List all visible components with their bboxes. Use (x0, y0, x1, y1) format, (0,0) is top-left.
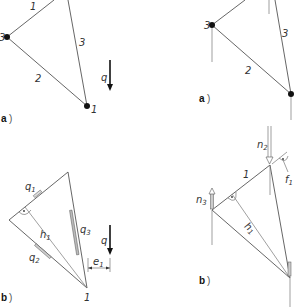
load-arrow-icon (107, 248, 113, 255)
panel-paren: ) (207, 275, 210, 286)
member-2 (7, 37, 87, 106)
node-1-force-arrow (288, 262, 291, 276)
node-1 (288, 91, 294, 97)
panel-b-right: 1 h1 n3 n2 f1 b ) (196, 126, 293, 307)
load-arrow-icon (107, 84, 113, 91)
member-2 (212, 25, 291, 94)
truss-diagram: 3 1 1 2 3 q a ) 3 2 3 a ) h1 (0, 0, 295, 307)
f1-right-angle-dot (282, 158, 284, 160)
member-1 (212, 165, 270, 210)
height-line-h1 (232, 194, 290, 278)
load-label: q (101, 72, 107, 83)
n3-label: n3 (196, 194, 207, 207)
panel-label: b (199, 275, 205, 286)
n3-arrow-up-icon (209, 188, 215, 194)
h1-label: h1 (40, 229, 51, 242)
node-1 (84, 103, 90, 109)
member-2-label: 2 (35, 73, 41, 84)
member-3 (68, 0, 87, 106)
member-1 (9, 172, 68, 220)
n3-force-shaft (211, 193, 214, 209)
node-3-label: 3 (204, 20, 210, 31)
member-3-label: 3 (282, 28, 288, 39)
member-1-label: 1 (30, 1, 36, 12)
e1-label: e1 (93, 256, 104, 269)
panel-label: b (1, 292, 7, 303)
panel-b-left: h1 q1 q2 q3 q e1 1 b ) (1, 172, 113, 303)
q3-label: q3 (80, 224, 91, 237)
n2-arrow-down-icon (266, 157, 273, 164)
f1-leader-line (283, 160, 288, 172)
panel-a-left: 3 1 1 2 3 q a ) (0, 0, 113, 124)
load-label: q (101, 235, 107, 246)
node-1-label: 1 (84, 292, 90, 303)
member-3 (275, 0, 291, 94)
panel-paren: ) (9, 292, 12, 303)
node-1-label: 1 (91, 104, 97, 115)
n2-label: n2 (257, 139, 268, 152)
panel-paren: ) (9, 113, 12, 124)
member-1-label: 1 (243, 169, 249, 180)
member-3-label: 3 (79, 37, 85, 48)
member-1 (212, 0, 245, 25)
right-angle-dot (231, 196, 233, 198)
member-2-label: 2 (245, 65, 251, 76)
h1-label: h1 (241, 220, 258, 237)
panel-a-right: 3 2 3 a ) (199, 0, 294, 120)
panel-label: a (1, 113, 7, 124)
q2-label: q2 (29, 252, 40, 265)
e1-arrow-right-icon (106, 267, 110, 270)
q1-label: q1 (25, 181, 36, 194)
right-angle-dot (23, 210, 25, 212)
node-3-label: 3 (0, 32, 5, 43)
panel-paren: ) (207, 93, 210, 104)
f1-label: f1 (285, 174, 293, 187)
e1-arrow-left-icon (88, 267, 92, 270)
panel-label: a (199, 93, 205, 104)
